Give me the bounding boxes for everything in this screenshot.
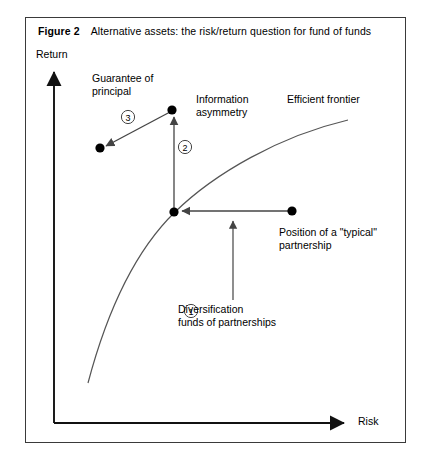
annotation-guarantee-of-principal: Guarantee of principal <box>92 72 153 97</box>
step-marker-3-text: 3 <box>125 113 130 123</box>
y-axis-label: Return <box>36 48 68 61</box>
annotation-diversification: Diversification funds of partnerships <box>178 303 276 328</box>
step-marker-2-text: 2 <box>182 143 187 153</box>
annotation-typical-partnership: Position of a "typical" partnership <box>279 226 377 251</box>
annotation-information-asymmetry: Information asymmetry <box>196 93 249 118</box>
annotation-information-line-2: asymmetry <box>196 106 249 119</box>
annotation-diversification-line-1: Diversification <box>178 303 276 316</box>
figure-container: Figure 2Alternative assets: the risk/ret… <box>0 0 426 461</box>
point-typical-partnership <box>287 206 296 215</box>
annotation-position-line-2: partnership <box>279 239 377 252</box>
efficient-frontier-curve <box>88 120 348 383</box>
annotation-information-line-1: Information <box>196 93 249 106</box>
step-marker-3: 3 <box>121 110 134 123</box>
point-diversified-fund <box>169 207 178 216</box>
point-information-asymmetry <box>167 105 176 114</box>
annotation-diversification-line-2: funds of partnerships <box>178 316 276 329</box>
x-axis-label: Risk <box>358 415 378 428</box>
annotation-guarantee-line-2: principal <box>92 85 153 98</box>
step-marker-2: 2 <box>178 140 191 153</box>
annotation-position-line-1: Position of a "typical" <box>279 226 377 239</box>
step3-arrow <box>106 112 170 146</box>
point-guarantee-principal <box>95 143 104 152</box>
annotation-guarantee-line-1: Guarantee of <box>92 72 153 85</box>
annotation-efficient-frontier: Efficient frontier <box>287 93 360 106</box>
